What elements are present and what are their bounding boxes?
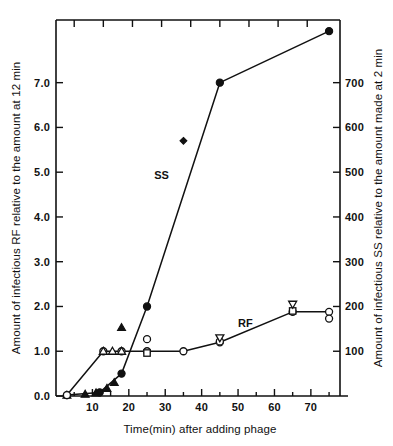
datapoint-rf (326, 308, 333, 315)
left-axis-ticklabels: 0.01.02.03.04.05.06.07.0 (34, 77, 50, 402)
x-ticklabel: 20 (123, 401, 136, 413)
axes-frame (56, 20, 348, 396)
datapoint-ss (216, 79, 223, 86)
y-ticklabel: 6.0 (34, 121, 50, 133)
y-ticklabel-right: 600 (345, 121, 364, 133)
top-axis-ticks (74, 20, 307, 27)
bottom-axis-ticklabels: 10203040506070 (86, 401, 317, 413)
bottom-axis-ticks (74, 389, 329, 396)
figure-container: 0.01.02.03.04.05.06.07.0 100200300400500… (0, 0, 393, 446)
y-ticklabel-right: 100 (345, 345, 364, 357)
y-axis-title-right: Amount of infectious SS relative to the … (372, 49, 384, 368)
datapoint-rf (63, 392, 70, 399)
x-ticklabel: 70 (305, 401, 318, 413)
left-axis-ticks (56, 83, 63, 396)
datapoint-rf (180, 348, 187, 355)
y-ticklabel: 1.0 (34, 345, 50, 357)
y-ticklabel: 7.0 (34, 77, 50, 89)
x-ticklabel: 60 (268, 401, 281, 413)
x-ticklabel: 10 (86, 401, 99, 413)
x-axis-title: Time(min) after adding phage (123, 423, 276, 435)
datapoint-ss (143, 303, 150, 310)
right-axis-ticks (333, 83, 340, 352)
y-ticklabel: 5.0 (34, 166, 50, 178)
datapoint-ss-triangles (118, 324, 126, 331)
series-annotations: SSRF (154, 169, 253, 329)
series-lines (67, 31, 329, 395)
x-ticklabel: 40 (195, 401, 208, 413)
y-ticklabel: 3.0 (34, 256, 50, 268)
datapoint-rf-open-squares (144, 350, 150, 356)
y-ticklabel: 4.0 (34, 211, 50, 223)
datapoint-rf-open-circles-extra (326, 315, 333, 322)
y-ticklabel-right: 500 (345, 166, 364, 178)
series-annotation-rf: RF (238, 317, 253, 329)
y-ticklabel-right: 200 (345, 300, 364, 312)
y-ticklabel: 2.0 (34, 300, 50, 312)
x-ticklabel: 30 (159, 401, 172, 413)
x-ticklabel: 50 (232, 401, 245, 413)
datapoint-rf-open-circles-extra (144, 336, 151, 343)
datapoint-ss-diamond (180, 137, 187, 144)
datapoint-ss (118, 370, 125, 377)
chart-svg: 0.01.02.03.04.05.06.07.0 100200300400500… (0, 0, 393, 446)
datapoint-ss (325, 28, 332, 35)
y-ticklabel-right: 300 (345, 256, 364, 268)
y-ticklabel-right: 400 (345, 211, 364, 223)
right-axis-ticklabels: 100200300400500600700 (345, 77, 364, 358)
y-ticklabel: 0.0 (34, 390, 50, 402)
series-markers (63, 28, 333, 399)
y-ticklabel-right: 700 (345, 77, 364, 89)
y-axis-title: Amount of infectious RF relative to the … (10, 62, 22, 355)
series-line-ss (67, 31, 329, 395)
series-annotation-ss: SS (154, 169, 169, 181)
